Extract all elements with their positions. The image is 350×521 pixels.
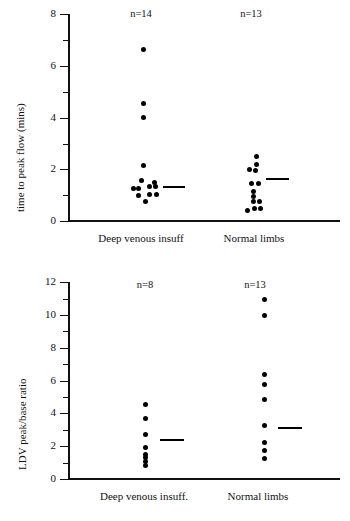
median-marker: [160, 439, 184, 441]
data-point: [254, 154, 259, 159]
y-tick-major: [60, 315, 69, 316]
y-tick-label: 0: [34, 214, 56, 226]
y-tick-label: 4: [34, 406, 56, 418]
data-point: [143, 445, 148, 450]
data-point: [143, 432, 148, 437]
y-tick-major: [60, 14, 69, 15]
y-tick-major: [60, 413, 69, 414]
y-tick-minor: [63, 430, 69, 431]
y-tick-major: [60, 348, 69, 349]
data-point: [143, 416, 148, 421]
data-point: [136, 186, 141, 191]
x-axis-line: [68, 478, 340, 480]
data-point: [262, 372, 267, 377]
data-point: [245, 208, 250, 213]
data-point: [262, 397, 267, 402]
data-point: [147, 192, 152, 197]
data-point: [258, 206, 263, 211]
y-tick-label: 10: [28, 308, 56, 320]
y-tick-minor: [63, 331, 69, 332]
data-point: [152, 180, 157, 185]
y-tick-label: 8: [34, 7, 56, 19]
median-marker: [266, 178, 289, 180]
chart-panel-ldv-peak-base-ratio: LDV peak/base ratio 0 2 4 6 8 10 12 n=8: [0, 260, 350, 521]
data-point: [262, 440, 267, 445]
data-point: [139, 178, 144, 183]
data-point: [262, 456, 267, 461]
plot-area-top: time to peak flow (mins) 0 2 4 6 8 n=14: [0, 0, 350, 260]
y-tick-major: [60, 381, 69, 382]
data-point: [262, 313, 267, 318]
group-n-annotation: n=13: [210, 279, 300, 290]
y-tick-major: [60, 221, 69, 222]
data-point: [136, 193, 141, 198]
data-point: [262, 448, 267, 453]
median-marker: [278, 427, 302, 429]
y-tick-minor: [63, 40, 69, 41]
plot-area-bottom: LDV peak/base ratio 0 2 4 6 8 10 12 n=8: [0, 260, 350, 521]
y-tick-major: [60, 446, 69, 447]
data-point: [254, 162, 259, 167]
y-tick-minor: [63, 92, 69, 93]
y-tick-minor: [63, 195, 69, 196]
data-point: [252, 206, 257, 211]
y-tick-label: 6: [34, 374, 56, 386]
data-point: [143, 402, 148, 407]
data-point: [256, 181, 261, 186]
data-point: [143, 199, 148, 204]
y-tick-major: [60, 169, 69, 170]
y-axis-label: LDV peak/base ratio: [16, 379, 28, 470]
data-point: [154, 192, 159, 197]
median-marker: [163, 186, 185, 188]
x-category-label: Deep venous insuff: [86, 232, 196, 244]
y-tick-major: [60, 479, 69, 480]
y-tick-label: 2: [34, 439, 56, 451]
data-point: [147, 184, 152, 189]
y-tick-minor: [63, 463, 69, 464]
y-tick-label: 8: [34, 341, 56, 353]
data-point: [262, 382, 267, 387]
data-point: [253, 168, 258, 173]
y-tick-major: [60, 66, 69, 67]
data-point: [141, 163, 146, 168]
group-n-annotation: n=14: [96, 8, 186, 19]
y-tick-minor: [63, 364, 69, 365]
group-n-annotation: n=8: [100, 279, 190, 290]
y-tick-minor: [63, 397, 69, 398]
x-category-label: Normal limbs: [206, 232, 302, 244]
data-point: [251, 199, 256, 204]
x-category-label: Normal limbs: [210, 490, 306, 502]
data-point: [141, 47, 146, 52]
x-axis-line: [68, 220, 340, 222]
group-n-annotation: n=13: [206, 8, 296, 19]
data-point: [141, 101, 146, 106]
y-tick-label: 0: [34, 472, 56, 484]
y-tick-label: 12: [28, 275, 56, 287]
data-point: [257, 199, 262, 204]
data-point: [262, 423, 267, 428]
chart-panel-time-to-peak-flow: time to peak flow (mins) 0 2 4 6 8 n=14: [0, 0, 350, 260]
y-tick-minor: [63, 299, 69, 300]
y-tick-major: [60, 118, 69, 119]
y-tick-label: 4: [34, 111, 56, 123]
data-point: [247, 167, 252, 172]
y-tick-label: 6: [34, 59, 56, 71]
y-axis-label: time to peak flow (mins): [14, 103, 26, 212]
y-tick-label: 2: [34, 162, 56, 174]
figure-container: time to peak flow (mins) 0 2 4 6 8 n=14: [0, 0, 350, 521]
data-point: [262, 297, 267, 302]
data-point: [249, 181, 254, 186]
data-point: [143, 463, 148, 468]
data-point: [141, 115, 146, 120]
x-category-label: Deep venous insuff.: [84, 490, 204, 502]
y-tick-minor: [63, 144, 69, 145]
y-tick-major: [60, 282, 69, 283]
